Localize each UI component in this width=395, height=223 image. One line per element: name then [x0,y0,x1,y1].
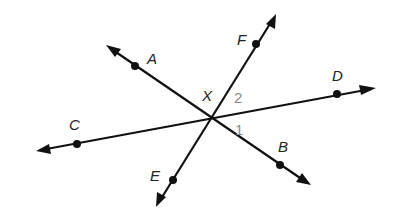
geometry-diagram: A B C D E F X 1 2 [0,0,395,223]
arrow-toward-b-icon [296,173,311,185]
angle-label-2: 2 [234,89,242,106]
label-a: A [146,50,157,67]
arrow-toward-c-icon [36,144,51,154]
point-a [131,62,139,70]
label-f: F [237,31,247,48]
arrow-toward-d-icon [359,85,376,95]
label-c: C [69,116,80,133]
label-b: B [278,138,288,155]
point-b [276,161,284,169]
point-f [252,40,260,48]
arrowheads [36,14,376,207]
point-d [333,90,341,98]
point-c [73,140,81,148]
point-e [169,176,177,184]
angle-label-1: 1 [235,121,243,138]
line-ab [110,48,306,182]
label-x-intersection: X [201,87,213,104]
label-e: E [150,167,161,184]
label-d: D [332,67,343,84]
